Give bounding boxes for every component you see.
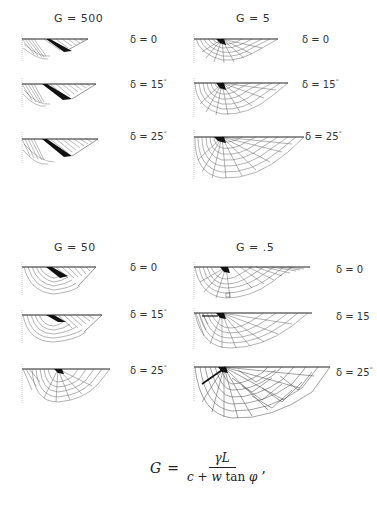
equation-lhs: G bbox=[150, 460, 161, 476]
slip-line-field-g05-d0 bbox=[192, 262, 312, 302]
equation-numerator: γL bbox=[209, 451, 236, 468]
equation-equals: = bbox=[167, 460, 179, 476]
delta-label-g50-d0: δ = 0 bbox=[130, 262, 157, 273]
slip-line-field-g500-d0 bbox=[20, 34, 90, 64]
slip-line-field-g500-d15 bbox=[20, 78, 100, 110]
panel-title-g500: G = 500 bbox=[54, 12, 103, 25]
delta-label-g50-d15: δ = 15° bbox=[130, 308, 167, 320]
equation-fraction: γL c + w tan φ bbox=[187, 451, 258, 484]
delta-label-g500-d25: δ = 25° bbox=[130, 130, 167, 142]
delta-label-g5-d15: δ = 15° bbox=[302, 78, 339, 90]
delta-label-g500-d15: δ = 15° bbox=[130, 78, 167, 90]
slip-line-field-g500-d25 bbox=[20, 132, 100, 166]
panel-title-g05: G = .5 bbox=[236, 241, 274, 254]
slip-line-field-g05-d25 bbox=[192, 362, 334, 422]
equation-denominator: c + w tan φ bbox=[187, 468, 258, 484]
delta-label-g500-d0: δ = 0 bbox=[130, 34, 157, 45]
delta-label-g5-d0: δ = 0 bbox=[302, 34, 329, 45]
delta-label-g50-d25: δ = 25° bbox=[130, 364, 167, 376]
slip-line-field-g5-d25 bbox=[192, 130, 307, 182]
equation-trailing-comma: , bbox=[261, 460, 265, 476]
panel-title-g50: G = 50 bbox=[54, 241, 96, 254]
delta-label-g05-d0: δ = 0 bbox=[336, 264, 363, 275]
delta-label-g05-d25: δ = 25° bbox=[336, 366, 373, 378]
g-definition-equation: G = γL c + w tan φ , bbox=[150, 451, 266, 484]
slip-line-field-g50-d0 bbox=[20, 262, 98, 298]
panel-title-g5: G = 5 bbox=[236, 12, 270, 25]
delta-label-g5-d25: δ = 25° bbox=[305, 130, 342, 142]
slip-line-field-g50-d25 bbox=[20, 364, 112, 406]
slip-line-field-g50-d15 bbox=[20, 310, 106, 346]
slip-line-field-g05-d15 bbox=[192, 308, 316, 352]
slip-line-field-g5-d15 bbox=[192, 78, 292, 120]
delta-label-g05-d15: δ = 15 bbox=[336, 310, 370, 322]
slip-line-field-g5-d0 bbox=[192, 34, 282, 66]
